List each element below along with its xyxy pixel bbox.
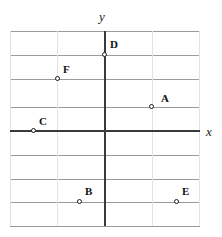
y-axis-label: y xyxy=(99,10,105,23)
gridline-vertical xyxy=(152,31,153,226)
data-point-label-a: A xyxy=(161,93,169,104)
data-point-a xyxy=(149,104,154,109)
data-point-b xyxy=(77,199,82,204)
data-point-label-b: B xyxy=(85,186,92,197)
gridline-vertical xyxy=(57,31,58,226)
coordinate-plane: y x ABCDEF xyxy=(0,0,222,237)
data-point-label-d: D xyxy=(110,39,118,50)
data-point-label-f: F xyxy=(63,64,70,75)
gridline-horizontal xyxy=(10,226,200,227)
data-point-c xyxy=(31,128,36,133)
x-axis-label: x xyxy=(206,125,212,138)
gridline-vertical xyxy=(199,31,200,226)
data-point-d xyxy=(102,52,107,57)
data-point-e xyxy=(174,199,179,204)
y-axis xyxy=(104,31,106,226)
data-point-label-c: C xyxy=(39,116,47,127)
data-point-f xyxy=(55,76,60,81)
data-point-label-e: E xyxy=(182,186,189,197)
gridline-vertical xyxy=(10,31,11,226)
